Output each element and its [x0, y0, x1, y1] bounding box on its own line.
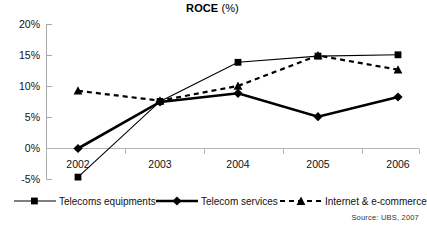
legend-item-telecom-services[interactable]: Telecom services [156, 193, 278, 209]
x-tick-label-2006: 2006 [375, 158, 421, 170]
x-tick-label-2003: 2003 [137, 158, 183, 170]
x-tick-label-2004: 2004 [215, 158, 261, 170]
x-axis-ticks [47, 149, 420, 155]
y-tick-label-10: 10% [0, 80, 40, 92]
legend-label-telecom-services: Telecom services [201, 196, 278, 207]
legend-key-diamond-solid [156, 194, 198, 208]
series-telecom-services [73, 89, 402, 153]
y-tick-label-0: 0% [0, 142, 40, 154]
legend-label-telecoms-equipments: Telecoms equipments [59, 196, 156, 207]
y-tick-label-5: 5% [0, 111, 40, 123]
y-tick-label-neg5: -5% [0, 173, 40, 185]
y-tick-label-15: 15% [0, 49, 40, 61]
x-tick-label-2005: 2005 [295, 158, 341, 170]
y-tick-label-20: 20% [0, 18, 40, 30]
legend-key-triangle-dashed [280, 194, 322, 208]
source-note: Source: UBS, 2007 [351, 213, 419, 222]
chart-legend: Telecoms equipments Telecom services Int… [0, 193, 425, 209]
legend-item-telecoms-equipments[interactable]: Telecoms equipments [14, 193, 156, 209]
axes [47, 24, 420, 180]
legend-label-internet-and-ecommerce: Internet & e-commerce [325, 196, 427, 207]
legend-item-internet-and-ecommerce[interactable]: Internet & e-commerce [280, 193, 427, 209]
y-axis-ticks [47, 25, 53, 180]
x-tick-label-2002: 2002 [55, 158, 101, 170]
legend-key-square-solid [14, 194, 56, 208]
